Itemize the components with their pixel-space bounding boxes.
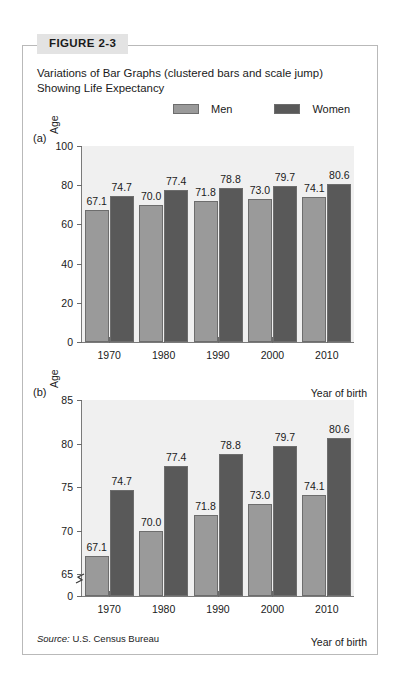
bar-men-1990-value-label: 71.8: [195, 500, 215, 512]
plot-area-b: 0657075808567.174.7197070.077.4198071.87…: [81, 400, 354, 597]
bar-women-2000-value-label: 79.7: [275, 171, 295, 183]
bar-men-2000: [248, 504, 272, 596]
bar-women-1990: [219, 188, 243, 342]
y-axis-tick-20: 20: [61, 297, 82, 309]
bar-women-1990-value-label: 78.8: [220, 173, 240, 185]
bar-men-1990-value-label: 71.8: [195, 186, 215, 198]
bar-men-1980: [139, 531, 163, 597]
bar-women-2010: [327, 184, 351, 342]
y-axis-tick-75: 75: [61, 481, 82, 493]
bar-women-1980: [164, 466, 188, 596]
bar-men-2010-value-label: 74.1: [304, 182, 324, 194]
legend-item-women: Women: [274, 103, 350, 115]
bar-women-1980-value-label: 77.4: [166, 451, 186, 463]
figure-title: Variations of Bar Graphs (clustered bars…: [37, 66, 367, 96]
x-axis-tick-label-2010: 2010: [315, 603, 338, 615]
x-axis-tick-mark-1990: [218, 337, 219, 343]
bar-men-2010-value-label: 74.1: [304, 480, 324, 492]
x-axis-tick-mark-1980: [164, 337, 165, 343]
figure-source: Source: U.S. Census Bureau: [37, 633, 159, 644]
y-axis-tick-80: 80: [61, 179, 82, 191]
bar-women-1990-value-label: 78.8: [220, 439, 240, 451]
bar-men-1970-value-label: 67.1: [86, 541, 106, 553]
x-axis-tick-label-1970: 1970: [98, 603, 121, 615]
x-axis-tick-mark-1970: [109, 337, 110, 343]
x-axis-tick-label-1980: 1980: [152, 349, 175, 361]
chart-legend: Men Women: [173, 103, 350, 115]
panel-tag-b: (b): [33, 386, 46, 398]
y-axis-tick-100: 100: [55, 140, 82, 152]
bar-men-1990: [194, 515, 218, 596]
bar-men-2000-value-label: 73.0: [250, 184, 270, 196]
bar-women-1980-value-label: 77.4: [166, 175, 186, 187]
y-axis-tick-80: 80: [61, 438, 82, 450]
bar-women-1970-value-label: 74.7: [111, 475, 131, 487]
legend-swatch-women-icon: [274, 104, 300, 114]
bar-women-1970-value-label: 74.7: [111, 181, 131, 193]
x-axis-tick-label-1970: 1970: [98, 349, 121, 361]
source-prefix: Source:: [37, 633, 70, 644]
x-axis-tick-mark-1980: [164, 591, 165, 597]
bar-men-1970: [85, 210, 109, 342]
bar-women-2000-value-label: 79.7: [275, 431, 295, 443]
bar-men-2010: [302, 197, 326, 342]
y-axis-title-a: Age: [48, 115, 60, 134]
bar-men-2000: [248, 199, 272, 342]
bar-men-1990: [194, 201, 218, 342]
bar-men-1980: [139, 205, 163, 342]
x-axis-tick-mark-2000: [272, 337, 273, 343]
y-axis-tick-65: 65: [61, 568, 82, 580]
bar-women-1980: [164, 190, 188, 342]
bar-men-1970: [85, 556, 109, 596]
x-axis-tick-label-1980: 1980: [152, 603, 175, 615]
figure-number-tab: FIGURE 2-3: [37, 34, 128, 54]
x-axis-tick-mark-1970: [109, 591, 110, 597]
bar-women-2010: [327, 438, 351, 596]
x-axis-tick-mark-2010: [327, 337, 328, 343]
y-axis-tick-60: 60: [61, 218, 82, 230]
x-axis-tick-label-2000: 2000: [261, 349, 284, 361]
y-axis-tick-85: 85: [61, 394, 82, 406]
x-axis-tick-mark-2010: [327, 591, 328, 597]
y-axis-tick-0: 0: [67, 590, 82, 602]
x-axis-tick-label-2000: 2000: [261, 603, 284, 615]
plot-area-a: 02040608010067.174.7197070.077.4198071.8…: [81, 146, 354, 343]
legend-item-men: Men: [173, 103, 232, 115]
bar-men-1980-value-label: 70.0: [141, 516, 161, 528]
bar-men-2010: [302, 495, 326, 596]
bar-men-1980-value-label: 70.0: [141, 190, 161, 202]
source-text: U.S. Census Bureau: [72, 633, 159, 644]
bar-women-1970: [110, 196, 134, 342]
bar-women-1970: [110, 490, 134, 596]
x-axis-tick-mark-2000: [272, 591, 273, 597]
chart-panel-b: (b) Age 0657075808567.174.7197070.077.41…: [23, 386, 379, 646]
figure-container: FIGURE 2-3 Variations of Bar Graphs (clu…: [22, 45, 378, 655]
y-axis-tick-0: 0: [67, 336, 82, 348]
legend-swatch-men-icon: [173, 104, 199, 114]
legend-label-men: Men: [211, 103, 232, 115]
x-axis-tick-label-2010: 2010: [315, 349, 338, 361]
chart-panel-a: (a) Age 02040608010067.174.7197070.077.4…: [23, 132, 379, 397]
y-axis-tick-70: 70: [61, 525, 82, 537]
panel-tag-a: (a): [33, 132, 46, 144]
bar-women-1990: [219, 454, 243, 596]
legend-label-women: Women: [312, 103, 350, 115]
x-axis-tick-mark-1990: [218, 591, 219, 597]
bar-women-2000: [273, 186, 297, 342]
x-axis-tick-label-1990: 1990: [206, 603, 229, 615]
bar-women-2010-value-label: 80.6: [329, 423, 349, 435]
y-axis-title-b: Age: [48, 369, 60, 388]
bar-men-1970-value-label: 67.1: [86, 195, 106, 207]
y-axis-tick-40: 40: [61, 258, 82, 270]
bar-men-2000-value-label: 73.0: [250, 489, 270, 501]
x-axis-tick-label-1990: 1990: [206, 349, 229, 361]
bar-women-2000: [273, 446, 297, 596]
x-axis-title-b: Year of birth: [311, 636, 367, 648]
bar-women-2010-value-label: 80.6: [329, 169, 349, 181]
